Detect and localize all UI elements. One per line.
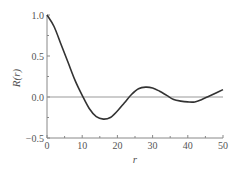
tick-label: 50 bbox=[218, 140, 228, 151]
tick-label: −0.5 bbox=[26, 133, 44, 144]
tick-label: 40 bbox=[183, 140, 193, 151]
tick-label: 30 bbox=[148, 140, 158, 151]
tick-label: 20 bbox=[112, 140, 122, 151]
tick-label: 0.5 bbox=[32, 51, 45, 62]
tick-label: 1.0 bbox=[32, 10, 45, 21]
chart: 01020304050−0.50.00.51.0 r R(r) bbox=[0, 0, 242, 174]
tick-label: 0.0 bbox=[32, 92, 45, 103]
y-axis-label: R(r) bbox=[10, 69, 23, 89]
tick-label: 0 bbox=[45, 140, 50, 151]
data-line bbox=[47, 15, 223, 119]
x-axis-label: r bbox=[133, 153, 138, 165]
tick-label: 10 bbox=[77, 140, 87, 151]
